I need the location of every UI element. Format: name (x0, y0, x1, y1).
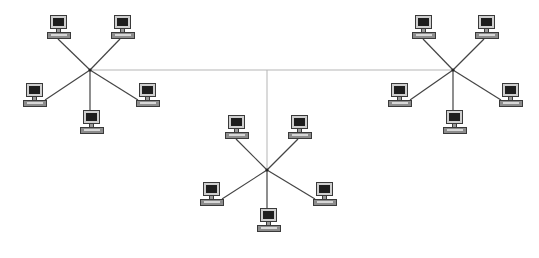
keyboard-base-icon (47, 32, 71, 39)
screen (142, 86, 153, 94)
network-topology-diagram (0, 0, 539, 258)
monitor-icon (26, 83, 43, 97)
star-link-right-4 (453, 70, 501, 100)
hub-center (265, 168, 268, 171)
computer-icon (80, 110, 104, 135)
monitor-icon (203, 182, 220, 196)
star-link-right-0 (423, 39, 453, 70)
monitor-icon (291, 115, 308, 129)
star-link-left-2 (45, 70, 90, 100)
screen (481, 18, 492, 26)
star-link-left-1 (90, 39, 120, 70)
screen (505, 86, 516, 94)
computer-icon (225, 115, 249, 140)
keyboard-base-icon (499, 100, 523, 107)
keyboard-base-icon (200, 199, 224, 206)
computer-icon (313, 182, 337, 207)
monitor-icon (502, 83, 519, 97)
computer-icon (288, 115, 312, 140)
star-link-right-2 (410, 70, 453, 100)
keyboard-base-icon (80, 127, 104, 134)
computer-icon (257, 208, 281, 233)
screen (394, 86, 405, 94)
screen (319, 185, 330, 193)
computer-icon (136, 83, 160, 108)
screen (418, 18, 429, 26)
screen (449, 113, 460, 121)
keyboard-base-icon (111, 32, 135, 39)
monitor-icon (114, 15, 131, 29)
keyboard-base-icon (475, 32, 499, 39)
screen (206, 185, 217, 193)
keyboard-base-icon (443, 127, 467, 134)
keyboard-base-icon (288, 132, 312, 139)
computer-icon (412, 15, 436, 40)
keyboard-base-icon (23, 100, 47, 107)
monitor-icon (260, 208, 277, 222)
computer-icon (47, 15, 71, 40)
keyboard-base-icon (257, 225, 281, 232)
computer-icon (499, 83, 523, 108)
monitor-icon (415, 15, 432, 29)
monitor-icon (139, 83, 156, 97)
screen (231, 118, 242, 126)
monitor-icon (478, 15, 495, 29)
computer-icon (111, 15, 135, 40)
computer-icon (200, 182, 224, 207)
monitor-icon (228, 115, 245, 129)
star-link-left-0 (58, 39, 90, 70)
computer-icon (475, 15, 499, 40)
screen (117, 18, 128, 26)
monitor-icon (83, 110, 100, 124)
computer-icon (443, 110, 467, 135)
keyboard-base-icon (225, 132, 249, 139)
keyboard-base-icon (388, 100, 412, 107)
star-link-center-0 (236, 139, 267, 170)
screen (86, 113, 97, 121)
screen (29, 86, 40, 94)
star-link-center-2 (222, 170, 267, 199)
monitor-icon (316, 182, 333, 196)
screen (294, 118, 305, 126)
star-link-left-4 (90, 70, 138, 100)
keyboard-base-icon (412, 32, 436, 39)
monitor-icon (50, 15, 67, 29)
hub-right (451, 68, 454, 71)
keyboard-base-icon (136, 100, 160, 107)
star-link-right-1 (453, 39, 484, 70)
monitor-icon (446, 110, 463, 124)
computer-icon (23, 83, 47, 108)
screen (53, 18, 64, 26)
star-link-center-1 (267, 139, 298, 170)
hub-left (88, 68, 91, 71)
computer-icon (388, 83, 412, 108)
star-link-center-4 (267, 170, 315, 199)
keyboard-base-icon (313, 199, 337, 206)
monitor-icon (391, 83, 408, 97)
screen (263, 211, 274, 219)
